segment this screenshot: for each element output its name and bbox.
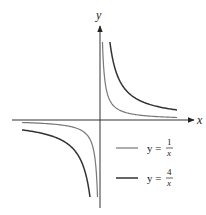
curve-1-over-x-lower-branch [22, 122, 97, 197]
y-axis-label: y [95, 8, 102, 22]
legend-denominator: x [166, 178, 171, 188]
x-axis-label: x [196, 113, 203, 127]
hyperbola-diagram: x y y = 1 x y = 4 x [0, 0, 206, 215]
legend-numerator: 1 [167, 137, 172, 147]
legend-item-1-over-x: y = 1 x [116, 137, 173, 158]
legend-item-4-over-x: y = 4 x [116, 167, 173, 188]
legend-numerator: 4 [167, 167, 172, 177]
legend: y = 1 x y = 4 x [116, 137, 173, 188]
legend-prefix: y = [147, 172, 161, 184]
curve-4-over-x-upper-branch [110, 42, 177, 110]
curve-1-over-x-upper-branch [102, 42, 177, 117]
curve-4-over-x-lower-branch [22, 130, 90, 197]
legend-prefix: y = [147, 142, 161, 154]
legend-denominator: x [166, 148, 171, 158]
